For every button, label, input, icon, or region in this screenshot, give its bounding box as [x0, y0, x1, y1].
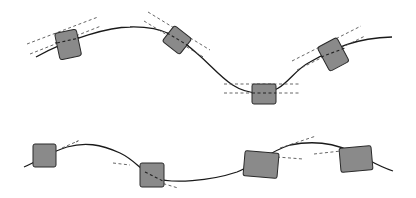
top-box-3	[252, 84, 276, 104]
bottom-box-3-tangents	[277, 136, 316, 159]
top-box-4	[317, 37, 349, 71]
bottom-box-1-tangents	[62, 140, 80, 148]
bottom-box-4	[339, 146, 373, 173]
top-box-2	[162, 25, 192, 54]
diagram-canvas	[0, 0, 416, 198]
bottom-box-4-tangents	[314, 151, 341, 154]
top-box-1	[55, 29, 82, 60]
bottom-curve	[24, 143, 393, 181]
bottom-box-1	[33, 144, 56, 167]
bottom-box-3	[243, 151, 279, 179]
